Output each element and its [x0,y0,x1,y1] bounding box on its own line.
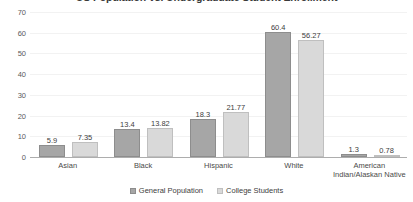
bar[interactable]: 60.4 [265,32,291,157]
bar-group: 13.413.82 [105,12,180,157]
bar-value-label: 21.77 [226,103,245,112]
bar[interactable]: 56.27 [298,40,324,157]
bar-group: 5.97.35 [30,12,105,157]
bar-value-label: 1.3 [348,145,358,154]
y-axis-tick-label: 30 [4,90,26,99]
plot-area: 5.97.3513.413.8218.321.7760.456.271.30.7… [30,12,407,157]
legend-swatch-icon [130,188,136,194]
y-axis-tick-label: 20 [4,111,26,120]
bar[interactable]: 21.77 [223,112,249,157]
bar[interactable]: 18.3 [190,119,216,157]
bar-group: 1.30.78 [332,12,407,157]
bar[interactable]: 5.9 [39,145,65,157]
bar-value-label: 18.3 [195,110,210,119]
bar-value-label: 7.35 [78,133,93,142]
x-axis-category-label: American Indian/Alaskan Native [332,161,407,179]
y-axis-tick-label: 50 [4,49,26,58]
bar-group: 60.456.27 [256,12,331,157]
bar-value-label: 5.9 [47,136,57,145]
y-axis: 010203040506070 [0,0,26,202]
bar-group: 18.321.77 [181,12,256,157]
y-axis-tick-label: 70 [4,8,26,17]
bar-value-label: 0.78 [379,146,394,155]
legend-item-label: General Population [139,186,203,195]
chart-title: US Population vs. Undergraduate Student … [0,0,413,3]
x-axis-category-label: White [256,161,331,170]
legend-item-label: College Students [226,186,283,195]
x-axis-category-label: Black [105,161,180,170]
x-axis-baseline [30,157,407,158]
chart-legend: General PopulationCollege Students [0,186,413,195]
bar-value-label: 13.82 [151,119,170,128]
legend-item[interactable]: General Population [130,186,203,195]
legend-item[interactable]: College Students [217,186,283,195]
bar-chart: US Population vs. Undergraduate Student … [0,0,413,202]
x-axis-category-label: Asian [30,161,105,170]
bar[interactable]: 7.35 [72,142,98,157]
y-axis-tick-label: 10 [4,132,26,141]
bar-value-label: 13.4 [120,120,135,129]
y-axis-tick-label: 60 [4,28,26,37]
y-axis-tick-label: 40 [4,70,26,79]
y-axis-tick-label: 0 [4,153,26,162]
bar-value-label: 56.27 [302,31,321,40]
legend-swatch-icon [217,188,223,194]
bar-value-label: 60.4 [271,23,286,32]
x-axis-category-label: Hispanic [181,161,256,170]
bar[interactable]: 13.4 [114,129,140,157]
bar[interactable]: 13.82 [147,128,173,157]
